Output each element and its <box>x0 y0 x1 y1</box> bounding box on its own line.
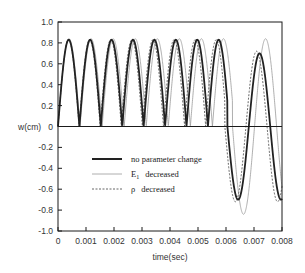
y-tick-label: -0.6 <box>38 184 53 194</box>
legend: no parameter change E1decreased ρdecreas… <box>92 154 202 194</box>
x-tick-label: 0.001 <box>75 236 97 246</box>
x-tick-label: 0.007 <box>243 236 265 246</box>
legend-item-rho-decreased: ρdecreased <box>92 184 176 194</box>
y-tick-label: 0.2 <box>41 101 53 111</box>
legend-label: E1decreased <box>131 169 179 180</box>
legend-label-rest: decreased <box>141 184 175 194</box>
y-tick-label: 0.6 <box>41 59 53 69</box>
y-tick-label: -0.8 <box>38 205 53 215</box>
legend-label: ρdecreased <box>131 184 176 194</box>
legend-label-main: ρ <box>131 184 135 194</box>
x-tick-label: 0.004 <box>159 236 181 246</box>
y-tick-label: 0.4 <box>41 80 53 90</box>
y-tick-label: -1.0 <box>38 226 53 236</box>
y-tick-label: 0 <box>48 122 53 132</box>
legend-item-e1-decreased: E1decreased <box>92 169 179 180</box>
legend-label: no parameter change <box>131 154 202 164</box>
x-axis: 00.0010.0020.0030.0040.0050.0060.0070.00… <box>56 227 293 246</box>
x-axis-label: time(sec) <box>153 252 188 262</box>
y-tick-label: -0.4 <box>38 163 53 173</box>
x-tick-label: 0.008 <box>271 236 293 246</box>
y-tick-label: -0.2 <box>38 142 53 152</box>
x-tick-label: 0.005 <box>187 236 209 246</box>
x-tick-label: 0.003 <box>131 236 153 246</box>
legend-item-no-parameter-change: no parameter change <box>92 154 202 164</box>
x-tick-label: 0.006 <box>215 236 237 246</box>
x-tick-label: 0 <box>56 236 61 246</box>
y-axis-label: w(cm) <box>17 122 41 132</box>
y-tick-label: 1.0 <box>41 17 53 27</box>
chart-canvas: 00.0010.0020.0030.0040.0050.0060.0070.00… <box>0 0 305 273</box>
legend-label-rest: decreased <box>145 169 179 179</box>
legend-label-subscript: 1 <box>136 174 139 180</box>
y-tick-label: 0.8 <box>41 38 53 48</box>
x-tick-label: 0.002 <box>103 236 125 246</box>
